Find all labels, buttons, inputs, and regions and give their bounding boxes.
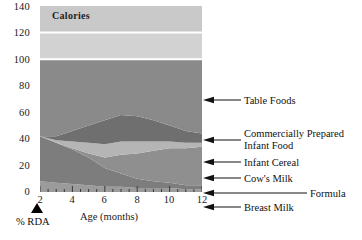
x-tick-6: 6 bbox=[92, 194, 116, 205]
plot-title: Calories bbox=[52, 10, 90, 21]
y-tick-80: 80 bbox=[2, 80, 30, 91]
callout-commercially-prepared-line1: Commercially Prepared bbox=[244, 128, 344, 140]
callout-table-foods: Table Foods bbox=[244, 95, 295, 107]
x-tick-12: 12 bbox=[190, 194, 214, 205]
callout-infant-cereal: Infant Cereal bbox=[244, 157, 299, 169]
y-tick-100: 100 bbox=[2, 54, 30, 65]
x-axis-title: Age (months) bbox=[80, 211, 138, 222]
chart-figure: 140 120 100 80 60 40 20 0 Calories 2 4 6… bbox=[0, 0, 362, 240]
upper-band-0 bbox=[40, 33, 202, 60]
callout-cows-milk: Cow's Milk bbox=[244, 173, 293, 185]
x-tick-10: 10 bbox=[157, 194, 181, 205]
rda-pointer-icon bbox=[31, 203, 43, 213]
y-tick-120: 120 bbox=[2, 27, 30, 38]
y-axis-title: % RDA bbox=[16, 216, 50, 227]
callout-breast-milk: Breast Milk bbox=[244, 202, 294, 214]
y-tick-140: 140 bbox=[2, 1, 30, 12]
stacked-area-svg bbox=[40, 6, 202, 192]
y-tick-20: 20 bbox=[2, 160, 30, 171]
callout-formula: Formula bbox=[310, 188, 346, 200]
x-tick-8: 8 bbox=[125, 194, 149, 205]
x-tick-4: 4 bbox=[60, 194, 84, 205]
y-tick-60: 60 bbox=[2, 107, 30, 118]
y-tick-40: 40 bbox=[2, 133, 30, 144]
plot-area bbox=[40, 6, 202, 192]
y-tick-0: 0 bbox=[2, 186, 30, 197]
callout-commercially-prepared-line2: Infant Food bbox=[244, 140, 293, 152]
